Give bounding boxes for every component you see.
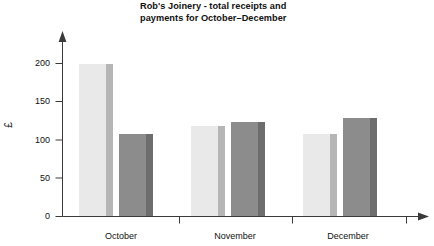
bar-november-receipts (191, 126, 225, 216)
y-axis-arrow (59, 31, 67, 42)
plot-area: £ 200 150 100 50 0 October November Dece… (0, 0, 434, 246)
y-tick-label-50: 50 (20, 174, 50, 183)
bar-december-receipts (303, 134, 337, 216)
x-axis-arrow (418, 213, 429, 221)
bar-side-shadow (330, 134, 337, 216)
x-tick-label-october: October (66, 232, 176, 241)
bar-october-payments (119, 134, 153, 216)
bar-side-shadow (106, 64, 113, 217)
bar-side-shadow (370, 118, 377, 216)
bar-october-receipts (79, 64, 113, 217)
y-tick-label-0: 0 (20, 212, 50, 221)
y-tick-label-100: 100 (20, 136, 50, 145)
bar-side-shadow (218, 126, 225, 216)
x-tick-label-december: December (293, 232, 403, 241)
x-tick-label-november: November (180, 232, 290, 241)
bar-december-payments (343, 118, 377, 216)
y-axis-label: £ (2, 118, 16, 132)
y-tick-label-200: 200 (20, 59, 50, 68)
chart-container: Rob's Joinery - total receipts and payme… (0, 0, 434, 246)
bar-side-shadow (258, 122, 265, 216)
bar-side-shadow (146, 134, 153, 216)
y-tick-label-150: 150 (20, 97, 50, 106)
bar-november-payments (231, 122, 265, 216)
